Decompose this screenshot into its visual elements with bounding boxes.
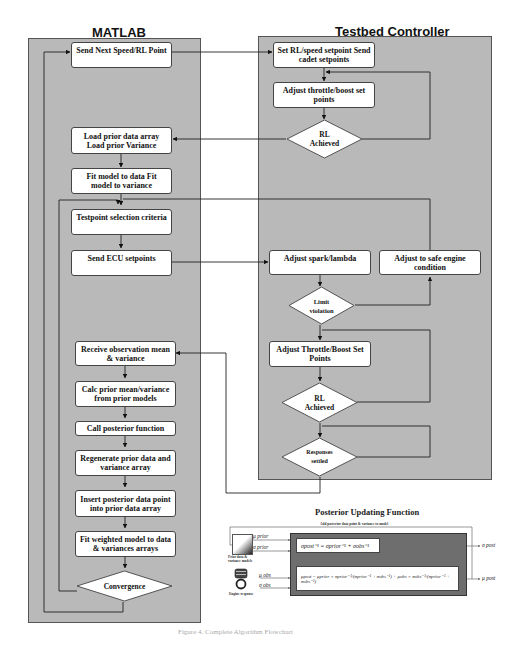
mu-post-output: μ post	[482, 575, 495, 581]
limit-violation-decision: Limit violation	[288, 286, 355, 325]
sigma-prior-input: σ prior	[253, 544, 268, 550]
testpoint-selection-box: Testpoint selection criteria	[71, 209, 172, 235]
responses-settled-decision: Responses settled	[281, 437, 358, 477]
adjust-safe-engine-box: Adjust to safe engine condition	[379, 250, 481, 275]
adjust-throttle-boost-box: Adjust throttle/boost set points	[273, 82, 375, 108]
engine-piston-icon	[234, 568, 248, 590]
rl-achieved-label-2: RL Achieved	[281, 382, 358, 423]
posterior-title: Posterior Updating Function	[315, 507, 419, 517]
prior-models-label: Prior data & variance models	[228, 555, 258, 563]
insert-posterior-box: Insert posterior data point into prior d…	[75, 490, 176, 517]
sigma-post-equation: σpost⁻¹ = σprior⁻¹ + σobs⁻¹	[296, 538, 380, 553]
rl-achieved-decision-1: RL Achieved	[286, 119, 363, 159]
adjust-throttle-boost-2-box: Adjust Throttle/Boost Set Points	[269, 341, 371, 367]
convergence-decision: Convergence	[76, 570, 173, 602]
mu-prior-input: μ prior	[253, 533, 268, 539]
rl-achieved-decision-2: RL Achieved	[281, 382, 358, 423]
rl-achieved-label-1: RL Achieved	[286, 119, 363, 159]
figure-caption: Figure 4. Complete Algorithm Flowchart	[178, 628, 293, 636]
engine-response-label: Engine response	[229, 592, 259, 596]
adjust-spark-lambda-box: Adjust spark/lambda	[269, 250, 371, 275]
limit-violation-label: Limit violation	[288, 286, 355, 325]
fit-weighted-model-box: Fit weighted model to data & variances a…	[75, 531, 176, 557]
mu-post-equation: μpost = μprior × σprior⁻¹/(σprior⁻¹ + σo…	[296, 566, 459, 591]
posterior-subtitle: Add posterior data point & variance to m…	[320, 522, 388, 526]
send-next-speed-rl-box: Send Next Speed/RL Point	[71, 42, 172, 68]
mu-obs-input: μ obs	[259, 572, 271, 578]
sigma-post-output: σ post	[482, 542, 495, 548]
regenerate-prior-box: Regenerate prior data and variance array	[75, 450, 176, 476]
prior-model-chart-icon	[232, 534, 253, 555]
responses-settled-label: Responses settled	[281, 437, 358, 477]
call-posterior-box: Call posterior function	[75, 421, 176, 436]
set-rl-speed-box: Set RL/speed setpoint Send cadet setpoin…	[273, 42, 375, 68]
sigma-obs-input: σ obs	[259, 582, 271, 588]
convergence-label: Convergence	[76, 570, 173, 602]
load-prior-box: Load prior data array Load prior Varianc…	[71, 127, 172, 154]
fit-model-box: Fit model to data Fit model to variance	[71, 168, 172, 194]
send-ecu-setpoints-box: Send ECU setpoints	[71, 250, 172, 276]
receive-observation-box: Receive observation mean & variance	[75, 341, 176, 366]
calc-prior-box: Calc prior mean/variance from prior mode…	[75, 381, 176, 407]
